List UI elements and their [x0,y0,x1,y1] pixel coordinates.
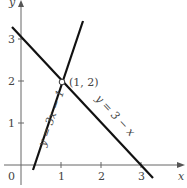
line-label-3-minus-x: y = 3 − x [92,91,138,139]
y-tick-label-2: 2 [8,75,15,88]
y-axis-label: y [8,0,16,9]
line-label-3x-minus-1: y = 3x − 1 [35,88,67,149]
y-tick-label-1: 1 [8,117,15,130]
y-axis-arrow-icon [18,0,24,7]
intersection-point-marker [59,79,65,85]
line-y-equals-3-minus-x [12,27,153,178]
origin-label: 0 [8,170,15,183]
intersection-label: (1, 2) [69,76,99,89]
x-tick-label-3: 3 [138,170,145,183]
y-tick-label-3: 3 [8,33,15,46]
x-axis-arrow-icon [177,162,185,168]
x-tick-label-1: 1 [58,170,65,183]
x-axis-label: x [178,170,185,183]
chart-canvas: 1 2 3 1 2 3 0 x y (1, 2) y = 3x − 1 y = … [0,0,187,188]
axes [4,0,185,185]
x-tick-label-2: 2 [98,170,105,183]
